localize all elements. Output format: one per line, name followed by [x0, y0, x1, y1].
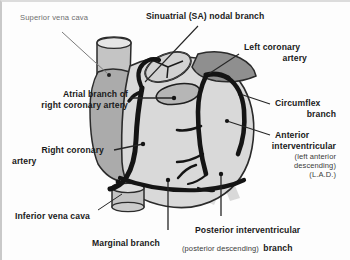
- label-anterior-interventricular-line1: Anterior: [275, 130, 309, 140]
- label-anterior-interventricular-sub3: (L.A.D.): [245, 170, 336, 179]
- label-sinuatrial-nodal-branch: Sinuatrial (SA) nodal branch: [146, 11, 264, 21]
- label-right-coronary-artery-line1: Right coronary: [12, 145, 104, 155]
- label-posterior-descending-paren: (posterior descending): [182, 244, 259, 253]
- label-circumflex-branch-line2: branch: [275, 109, 336, 119]
- label-atrial-branch-line2: right coronary artery: [10, 100, 128, 110]
- label-posterior-interventricular-line1: Posterior interventricular: [195, 225, 300, 235]
- anatomy-figure: Superior vena cava Sinuatrial (SA) nodal…: [0, 0, 350, 260]
- label-posterior-interventricular-line2: (posterior descending) branch: [182, 237, 293, 255]
- label-circumflex-branch-line1: Circumflex: [275, 98, 320, 108]
- label-anterior-interventricular-sub2: descending): [245, 161, 336, 170]
- label-inferior-vena-cava: Inferior vena cava: [15, 211, 90, 221]
- label-left-coronary-artery-line2: artery: [244, 53, 307, 63]
- label-posterior-branch-word: branch: [263, 243, 292, 253]
- label-anterior-interventricular-sub1: (left anterior: [245, 152, 336, 161]
- label-marginal-branch: Marginal branch: [92, 238, 160, 248]
- label-anterior-interventricular-line2: interventricular: [245, 141, 336, 151]
- label-right-coronary-artery-line2: artery: [12, 156, 37, 166]
- label-atrial-branch-line1: Atrial branch of: [10, 89, 128, 99]
- label-left-coronary-artery-line1: Left coronary: [244, 42, 300, 52]
- label-superior-vena-cava: Superior vena cava: [20, 13, 88, 23]
